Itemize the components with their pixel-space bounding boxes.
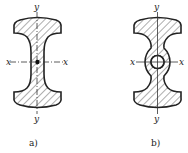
centroid-dot bbox=[35, 60, 39, 64]
y-label-bottom-b: y bbox=[153, 114, 160, 124]
y-label-top-b: y bbox=[153, 2, 160, 12]
caption-a: a) bbox=[29, 138, 38, 148]
x-label-right-b: x bbox=[179, 57, 184, 67]
cross-section-diagram: x x y y a) x x y y b) bbox=[0, 0, 188, 153]
figure-a: x x y y a) bbox=[6, 2, 68, 148]
x-label-right-a: x bbox=[63, 57, 68, 67]
x-label-left-b: x bbox=[130, 57, 135, 67]
figure-b: x x y y b) bbox=[130, 2, 184, 148]
caption-b: b) bbox=[151, 138, 160, 148]
x-label-left-a: x bbox=[6, 57, 11, 67]
y-label-bottom-a: y bbox=[33, 114, 40, 124]
y-label-top-a: y bbox=[33, 2, 40, 12]
